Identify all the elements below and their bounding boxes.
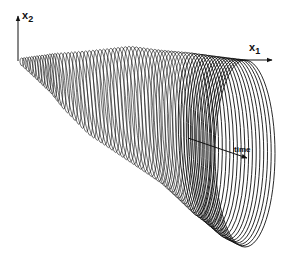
- ellipse-slice: [156, 50, 187, 196]
- ellipse-slice: [46, 54, 58, 98]
- time-axis-label: time: [234, 145, 251, 154]
- ellipse-slice: [19, 58, 24, 66]
- x2-axis-label: x2: [22, 9, 33, 24]
- tube-diagram: x2 x1 time: [0, 0, 286, 260]
- ellipse-slice: [145, 49, 172, 185]
- x1-axis-label: x1: [249, 41, 260, 56]
